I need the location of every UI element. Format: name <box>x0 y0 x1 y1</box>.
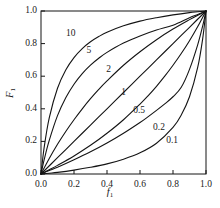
x-tick-label: 0.2 <box>68 180 80 190</box>
curve-label-0.2: 0.2 <box>153 123 165 133</box>
curve-label-1: 1 <box>121 88 126 98</box>
x-tick-label: 0.8 <box>167 180 179 190</box>
y-tick-label: 1.0 <box>25 6 37 16</box>
curve-label-2: 2 <box>106 66 111 76</box>
x-tick-label: 0.6 <box>134 180 146 190</box>
chart-figure: 0.00.20.40.60.81.0 0.00.20.40.60.81.0 10… <box>0 0 220 208</box>
y-tick-label: 0.4 <box>25 104 37 114</box>
curve-label-0.1: 0.1 <box>166 136 178 146</box>
y-tick-label: 0.2 <box>25 137 37 147</box>
y-tick-label: 0.6 <box>25 71 37 81</box>
x-tick-label: 1.0 <box>200 180 212 190</box>
curve-label-5: 5 <box>86 46 91 56</box>
x-tick-label: 0.0 <box>35 180 47 190</box>
y-tick-label: 0.0 <box>25 169 37 179</box>
curve-label-0.5: 0.5 <box>133 106 145 116</box>
x-axis-title: f1 <box>107 187 113 198</box>
y-tick-label: 0.8 <box>25 39 37 49</box>
curve-label-10: 10 <box>66 29 76 39</box>
y-axis-title: F1 <box>5 88 16 98</box>
